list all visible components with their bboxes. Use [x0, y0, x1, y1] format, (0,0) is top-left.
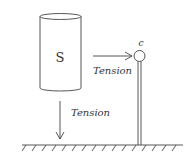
- vertical-tension-label: Tension: [71, 107, 110, 118]
- post-c: [134, 51, 145, 146]
- post-label: c: [138, 38, 143, 48]
- ground: [22, 145, 183, 151]
- cylinder-label: S: [56, 50, 65, 65]
- diagram-canvas: S Tension c Tension: [0, 0, 196, 168]
- cylinder-bottom: [40, 88, 81, 91]
- vertical-tension-arrow: [56, 101, 64, 139]
- horizontal-tension-label: Tension: [93, 65, 132, 76]
- cylinder-top: [40, 14, 81, 20]
- ground-hatching: [22, 145, 176, 151]
- post-ball: [134, 51, 145, 62]
- horizontal-tension-arrow: [93, 52, 132, 60]
